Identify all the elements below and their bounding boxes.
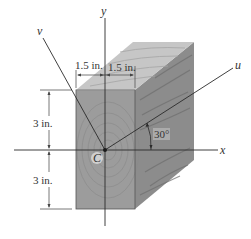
u-axis-label: u — [235, 58, 241, 72]
beam-cross-section-diagram: 1.5 in. 1.5 in. 3 in. 3 in. 30° x y u v … — [0, 0, 251, 239]
label-width-right: 1.5 in. — [108, 61, 136, 73]
v-axis-label: v — [37, 24, 43, 38]
label-height-upper: 3 in. — [33, 117, 53, 129]
centroid-point — [103, 148, 107, 152]
label-width-left: 1.5 in. — [75, 59, 103, 71]
angle-label: 30° — [154, 128, 169, 140]
centroid-label: C — [93, 151, 102, 165]
y-axis-label: y — [100, 4, 107, 18]
label-height-lower: 3 in. — [33, 174, 53, 186]
x-axis-label: x — [219, 143, 226, 157]
